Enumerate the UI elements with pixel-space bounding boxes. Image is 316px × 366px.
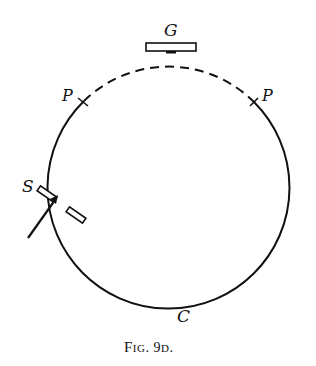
grating-plate bbox=[146, 43, 196, 51]
label-point-left: P bbox=[61, 86, 73, 105]
grating-ruling bbox=[166, 51, 176, 54]
rowland-circle-dashed-arc bbox=[84, 67, 254, 102]
label-slit: S bbox=[22, 176, 34, 196]
figure-caption: FIG. 9D. bbox=[124, 339, 173, 355]
rowland-circle-solid-arc bbox=[47, 101, 289, 309]
label-grating: G bbox=[164, 20, 178, 40]
label-circle: C bbox=[177, 306, 190, 326]
label-point-right: P bbox=[261, 86, 273, 105]
rowland-circle-diagram: G P P S C FIG. 9D. bbox=[0, 0, 316, 366]
slit-jaw-lower bbox=[66, 207, 86, 223]
